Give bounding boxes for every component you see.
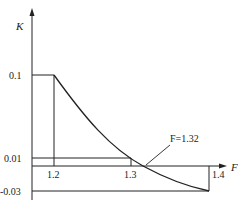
x-tick-1-4: 1.4 bbox=[212, 169, 225, 180]
annotation-leader bbox=[146, 145, 170, 165]
x-axis-arrow-icon bbox=[219, 164, 227, 169]
annotation-f-1-32: F=1.32 bbox=[170, 133, 199, 144]
y-tick-0-1: 0.1 bbox=[9, 70, 22, 81]
x-axis-label: F bbox=[230, 161, 238, 173]
x-tick-1-2: 1.2 bbox=[47, 169, 60, 180]
y-axis-arrow-icon bbox=[30, 8, 35, 16]
chart-svg: K F 0.1 0.01 -0.03 1.2 1.3 1.4 F=1.32 bbox=[0, 0, 247, 211]
y-axis-label: K bbox=[15, 20, 24, 32]
y-tick-0-01: 0.01 bbox=[4, 153, 22, 164]
y-tick-neg-0-03: -0.03 bbox=[0, 186, 21, 197]
x-tick-1-3: 1.3 bbox=[124, 169, 137, 180]
